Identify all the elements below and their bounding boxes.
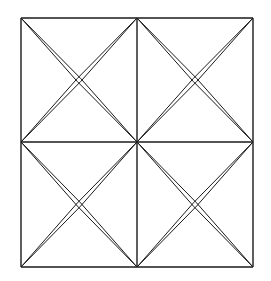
diagonal-line (193, 142, 253, 203)
diagonal-line (21, 203, 77, 267)
diagonal-line (21, 78, 77, 142)
diagonal-line (197, 18, 253, 82)
diagonal-line (197, 203, 253, 267)
diagonal-line (137, 142, 193, 206)
diagonal-line (21, 206, 81, 267)
diagonal-line (81, 78, 137, 142)
diagonal-line (137, 206, 197, 267)
diagonal-line (137, 82, 197, 142)
diagonal-line (77, 142, 137, 203)
diagonal-line (77, 18, 137, 78)
diagonal-line (21, 82, 81, 142)
diagonal-line (21, 142, 77, 206)
diagonal-line (137, 18, 197, 78)
diagonal-line (21, 18, 81, 78)
grid-diagram (0, 0, 271, 281)
diagonal-line (81, 203, 137, 267)
diagonal-line (193, 206, 253, 267)
diagonal-line (137, 142, 197, 203)
diagonal-line (77, 82, 137, 142)
diagonal-line (137, 18, 193, 82)
diagonal-line (193, 82, 253, 142)
diagonal-line (137, 78, 193, 142)
diagonal-line (21, 18, 77, 82)
diagonal-line (81, 142, 137, 206)
diagonal-line (81, 18, 137, 82)
diagonal-line (197, 78, 253, 142)
diagonal-line (193, 18, 253, 78)
diagonal-line (137, 203, 193, 267)
diagonal-line (77, 206, 137, 267)
diagonal-line (21, 142, 81, 203)
diagonal-line (197, 142, 253, 206)
